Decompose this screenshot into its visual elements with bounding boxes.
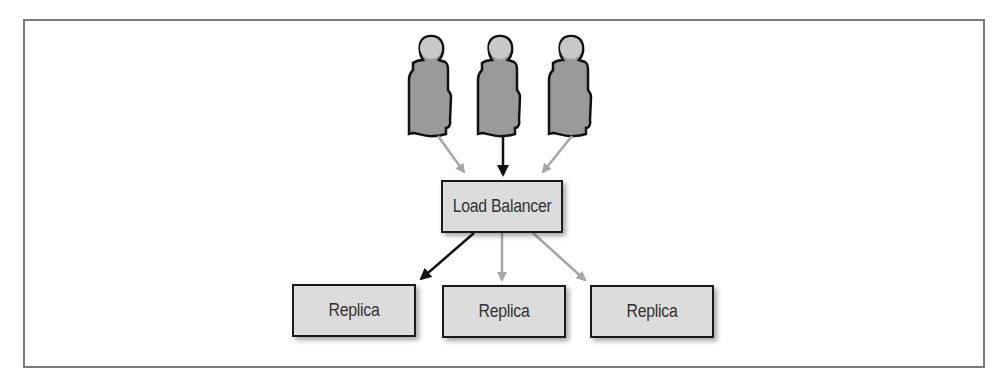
replica-label: Replica (479, 301, 530, 322)
person-icon (549, 36, 591, 136)
replica-node: Replica (292, 284, 416, 337)
replica-node: Replica (590, 285, 714, 338)
replica-label: Replica (329, 300, 380, 321)
person-icon (409, 36, 451, 136)
edge-user3-lb (543, 136, 572, 172)
load-balancer-node: Load Balancer (441, 180, 563, 233)
edge-user1-lb (438, 136, 464, 172)
load-balancer-label: Load Balancer (453, 196, 552, 217)
replica-node: Replica (442, 285, 566, 338)
replica-label: Replica (627, 301, 678, 322)
person-icon (478, 36, 520, 136)
edge-lb-replica1 (421, 233, 474, 279)
edge-lb-replica3 (533, 233, 585, 280)
